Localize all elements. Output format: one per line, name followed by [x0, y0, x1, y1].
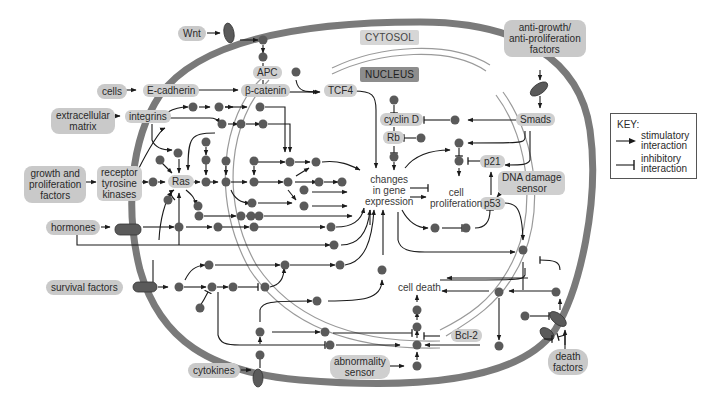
rtk-protein: receptor tyrosine kinases: [97, 166, 142, 201]
survival-factors-signal: survival factors: [46, 280, 123, 295]
cell-death-outcome: cell death: [393, 280, 446, 295]
apc-protein: APC: [253, 66, 282, 79]
cytosol-label: CYTOSOL: [360, 30, 419, 45]
cells-signal: cells: [97, 84, 127, 99]
cyclin-d-protein: cyclin D: [380, 113, 423, 126]
anti-growth-receptor: [528, 79, 550, 99]
abnormality-sensor: abnormality sensor: [330, 355, 390, 379]
cell-proliferation-outcome: cell proliferation: [425, 185, 487, 211]
hormone-receptor: [115, 224, 141, 235]
dna-damage-sensor: DNA damage sensor: [498, 171, 565, 195]
beta-catenin-protein: β-catenin: [241, 84, 290, 97]
stimulatory-arrow-icon: [615, 136, 639, 146]
anti-growth-signal: anti-growth/ anti-proliferation factors: [504, 20, 586, 57]
nucleus-label: NUCLEUS: [360, 67, 419, 82]
smads-protein: Smads: [516, 113, 555, 126]
rb-protein: Rb: [383, 131, 404, 144]
wnt-signal: Wnt: [178, 26, 206, 41]
key-title: KEY:: [617, 119, 639, 130]
signaling-network-diagram: [0, 0, 702, 405]
survival-receptor: [133, 282, 157, 292]
tcf4-protein: TCF4: [324, 84, 357, 97]
legend-key: KEY: stimulatory interaction inhibitory …: [610, 113, 697, 179]
growth-factors-signal: growth and proliferation factors: [24, 166, 86, 203]
cytokines-signal: cytokines: [188, 363, 240, 378]
wnt-receptor: [222, 22, 235, 43]
ras-protein: Ras: [168, 175, 194, 188]
p21-protein: p21: [480, 155, 505, 168]
e-cadherin-protein: E-cadherin: [143, 84, 199, 97]
cytokine-receptor: [253, 369, 263, 387]
gene-expression-outcome: changes in gene expression: [360, 172, 418, 209]
bcl2-protein: Bcl-2: [451, 329, 482, 342]
inhibitory-bar-icon: [615, 159, 639, 171]
key-stimulatory-label: stimulatory interaction: [641, 131, 689, 151]
integrins-protein: integrins: [125, 110, 171, 123]
extracellular-matrix-signal: extracellular matrix: [51, 108, 115, 134]
death-factors-signal: death factors: [548, 349, 588, 375]
hormones-signal: hormones: [46, 220, 100, 235]
key-inhibitory-label: inhibitory interaction: [641, 154, 687, 174]
